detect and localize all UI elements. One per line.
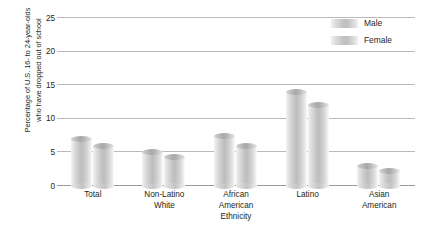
bar-male [357,166,378,186]
bar-male [286,92,307,186]
dropout-rate-bar-chart: Percentage of U.S. 16- to 24-year-olds w… [0,0,427,244]
bar-top-cap [357,163,378,169]
x-tick-label: African American [196,190,276,211]
bar-bottom-cap [357,183,378,189]
bar-bottom-cap [308,183,329,189]
bar-female [164,157,185,186]
y-tick-label: 10 [33,114,55,123]
y-axis-tick-labels: 0510152025 [28,0,55,244]
x-axis-title: Ethnicity [57,212,415,221]
bar-group [214,18,258,186]
bar-female [308,105,329,186]
legend-swatch-female [331,36,358,45]
bar-top-cap [379,168,400,174]
bar-top-cap [93,143,114,149]
bar-male [142,152,163,186]
bar-bottom-cap [379,183,400,189]
bar-male [71,139,92,186]
bar-group [286,18,330,186]
bar-top-cap [164,154,185,160]
y-tick-label: 25 [33,14,55,23]
bar-top-cap [286,89,307,95]
x-tick-label: Total [53,190,133,201]
legend-item-female: Female [331,34,423,47]
x-tick-label: Non-Latino White [124,190,204,211]
legend-item-male: Male [331,17,423,30]
y-tick-label: 5 [33,148,55,157]
bar-top-cap [308,102,329,108]
bar-top-cap [142,149,163,155]
x-tick-label: Asian American [339,190,419,211]
bar-group [142,18,186,186]
legend-label: Female [364,36,392,45]
bar-bottom-cap [93,183,114,189]
bar-bottom-cap [164,183,185,189]
legend-label: Male [364,19,382,28]
y-tick-label: 0 [33,182,55,191]
bar-bottom-cap [214,183,235,189]
bar-bottom-cap [142,183,163,189]
bar-male [214,136,235,186]
x-tick-label: Latino [268,190,348,201]
bar-bottom-cap [286,183,307,189]
bar-group [71,18,115,186]
bar-bottom-cap [71,183,92,189]
bar-bottom-cap [236,183,257,189]
legend-swatch-male [331,19,358,28]
bar-female [379,171,400,186]
bar-top-cap [236,143,257,149]
bar-female [93,146,114,186]
bar-female [236,146,257,186]
y-tick-label: 20 [33,47,55,56]
bar-top-cap [71,136,92,142]
bar-top-cap [214,133,235,139]
chart-legend: MaleFemale [331,17,423,51]
y-tick-label: 15 [33,81,55,90]
